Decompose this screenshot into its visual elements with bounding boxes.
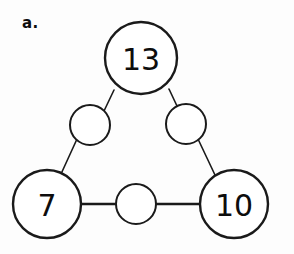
edge-left-mid-to-bottom-left [61,139,77,174]
right-midpoint-node[interactable] [166,104,206,144]
bottom-midpoint-node-circle[interactable] [116,184,156,224]
worksheet-figure: a. 13 7 [0,0,294,254]
bottom-right-corner-node-value: 10 [215,188,253,223]
node-group: 13 7 10 [13,22,268,238]
top-corner-node: 13 [105,22,177,94]
left-midpoint-node-circle[interactable] [70,105,110,145]
bottom-midpoint-node[interactable] [116,184,156,224]
edge-top-to-left-mid [104,90,114,111]
right-midpoint-node-circle[interactable] [166,104,206,144]
bottom-left-corner-node: 7 [13,170,81,238]
bottom-right-corner-node: 10 [200,170,268,238]
top-corner-node-value: 13 [122,42,160,77]
number-triangle-diagram: 13 7 10 [0,0,294,254]
edge-top-to-right-mid [169,89,177,106]
edge-right-mid-to-bottom-right [198,139,215,175]
bottom-left-corner-node-value: 7 [37,188,56,223]
left-midpoint-node[interactable] [70,105,110,145]
